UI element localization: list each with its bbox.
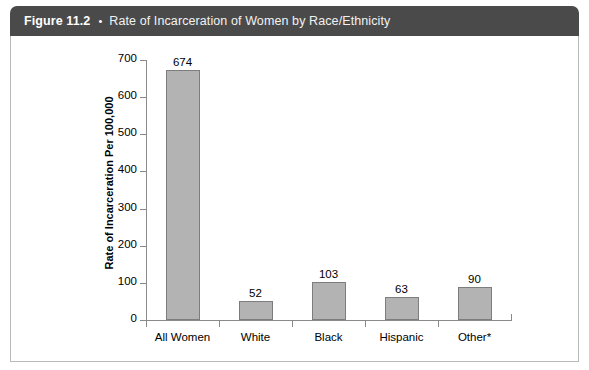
x-axis-tick-mark	[292, 321, 293, 327]
bar: 63	[385, 297, 419, 320]
y-axis-tick-mark	[140, 60, 146, 61]
figure-number: Figure 11.2	[24, 14, 90, 28]
x-axis-category-label: White	[241, 331, 270, 343]
y-axis-tick-label: 600	[118, 89, 137, 101]
y-axis-title-text: Rate of Incarceration Per 100,000	[103, 58, 115, 308]
y-axis-tick-label: 200	[118, 238, 137, 250]
bar: 674	[166, 70, 200, 320]
y-axis-tick-label: 400	[118, 163, 137, 175]
y-axis-tick-mark	[140, 246, 146, 247]
figure-frame: Figure 11.2 • Rate of Incarceration of W…	[10, 6, 579, 362]
y-axis-tick-label: 100	[118, 275, 137, 287]
bar-value-label: 103	[319, 268, 338, 280]
figure-title: Rate of Incarceration of Women by Race/E…	[109, 14, 390, 28]
bar-value-label: 674	[173, 56, 192, 68]
x-axis-tick-mark	[146, 321, 147, 327]
y-axis-tick-mark	[140, 134, 146, 135]
y-axis-tick-label: 500	[118, 126, 137, 138]
x-axis-end-tick	[511, 314, 512, 321]
bullet-separator-icon: •	[98, 16, 102, 27]
x-axis-category-label: All Women	[155, 331, 210, 343]
y-axis-tick-label: 300	[118, 201, 137, 213]
x-axis-tick-mark	[219, 321, 220, 327]
y-axis-tick-mark	[140, 171, 146, 172]
y-axis-tick-label: 700	[118, 52, 137, 64]
bar-chart: Rate of Incarceration Per 100,000 010020…	[11, 36, 578, 361]
y-axis-tick-mark	[140, 97, 146, 98]
x-axis-category-label: Black	[314, 331, 342, 343]
bar: 103	[312, 282, 346, 320]
x-axis-category-label: Other*	[458, 331, 491, 343]
bar: 90	[458, 287, 492, 320]
x-axis-line	[146, 320, 512, 321]
bar-value-label: 90	[468, 273, 481, 285]
x-axis-category-label: Hispanic	[379, 331, 423, 343]
figure-header: Figure 11.2 • Rate of Incarceration of W…	[10, 6, 579, 36]
bar: 52	[239, 301, 273, 320]
y-axis-line	[146, 60, 147, 321]
figure-body: Rate of Incarceration Per 100,000 010020…	[10, 36, 579, 362]
figure-screenshot: Figure 11.2 • Rate of Incarceration of W…	[0, 0, 589, 370]
x-axis-tick-mark	[365, 321, 366, 327]
bar-value-label: 63	[395, 283, 408, 295]
y-axis-tick-mark	[140, 283, 146, 284]
x-axis-tick-mark	[438, 321, 439, 327]
y-axis-tick-mark	[140, 209, 146, 210]
plot-area: 0100200300400500600700674All Women52Whit…	[146, 60, 511, 320]
bar-value-label: 52	[249, 287, 262, 299]
y-axis-tick-label: 0	[131, 312, 137, 324]
